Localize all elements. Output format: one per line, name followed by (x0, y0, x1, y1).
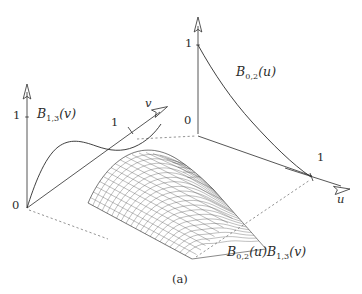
v-axis-label: v (145, 98, 152, 110)
v-vertical-axis-arrowhead (23, 84, 31, 99)
u-basis-curve-label: B0,2(u) (236, 66, 276, 79)
surface-left-edge (88, 203, 192, 259)
v-axis-inplane-tick-label-one: 1 (111, 117, 118, 129)
u-axis-tick-label-zero: 0 (184, 115, 191, 127)
figure-canvas (0, 0, 362, 294)
u-axis-label: u (337, 194, 344, 206)
v-basis-curve-label: B1,3(v) (37, 108, 76, 121)
u-basis-label-subscript: 0,2 (245, 72, 258, 81)
u-direction-axis-line (285, 168, 341, 186)
base-plane-outline (29, 136, 312, 257)
base-edge-front-left-dashed (29, 210, 108, 239)
surface-label-B2: B (267, 244, 276, 259)
surface-label-B1: B (227, 244, 236, 259)
u-vertical-axis-arrowhead (194, 17, 202, 32)
surface-product-label: B0,2(u)B1,3(v) (227, 246, 306, 259)
u-axis-tick-label-one: 1 (185, 38, 192, 50)
v-basis-label-arg: (v) (59, 106, 76, 121)
surface-right-edge (214, 190, 266, 249)
u-axis-group (194, 17, 350, 195)
u-basis-label-B: B (236, 64, 245, 79)
surface-label-sub2: 1,3 (276, 252, 289, 261)
surface-crest-edge (88, 150, 214, 203)
u-basis-curve (198, 45, 311, 177)
u-basis-label-arg: (u) (258, 64, 276, 79)
v-axis-tick-label-zero: 0 (12, 200, 19, 212)
v-axis-tick-label-one: 1 (13, 110, 20, 122)
v-basis-curve (27, 124, 161, 208)
bspline-figure: 1 0 1 v 1 0 1 u B1,3(v) B0,2(u) B0,2(u)B… (0, 0, 362, 294)
figure-caption: (a) (172, 274, 188, 286)
base-edge-back-left-dashed (137, 136, 196, 139)
surface-label-arg1: (u) (249, 244, 267, 259)
v-basis-label-subscript: 1,3 (46, 114, 59, 123)
base-edge-back-right (198, 136, 312, 176)
u-axis-inplane-tick-label-one: 1 (317, 152, 324, 164)
surface-label-sub1: 0,2 (236, 252, 249, 261)
v-basis-label-B: B (37, 106, 46, 121)
surface-label-arg2: (v) (289, 244, 306, 259)
